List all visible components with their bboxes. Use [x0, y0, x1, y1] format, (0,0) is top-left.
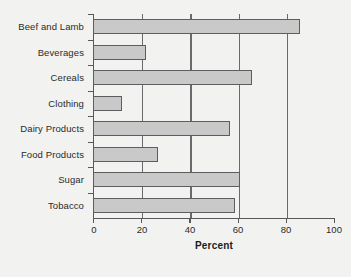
x-axis-tick-80: [286, 218, 287, 223]
y-axis-category-labels: Beef and Lamb Beverages Cereals Clothing…: [0, 14, 88, 218]
x-axis-ticklabel-40: 40: [185, 224, 196, 235]
x-axis-ticklabel-100: 100: [326, 224, 342, 235]
x-axis-ticklabel-20: 20: [137, 224, 148, 235]
y-axis-label-beverages: Beverages: [0, 40, 88, 66]
plot-area: [93, 14, 335, 218]
bar-row: [94, 91, 335, 117]
x-axis-tick-60: [238, 218, 239, 223]
y-axis-label-clothing: Clothing: [0, 91, 88, 117]
x-axis-ticklabel-80: 80: [281, 224, 292, 235]
bar-beverages: [93, 45, 146, 60]
bar-clothing: [93, 96, 122, 111]
bar-row: [94, 65, 335, 91]
x-axis-ticklabel-0: 0: [91, 224, 96, 235]
bar-dairy-products: [93, 121, 230, 136]
bar-food-products: [93, 147, 158, 162]
bar-cereals: [93, 70, 252, 85]
bar-row: [94, 116, 335, 142]
bar-row: [94, 40, 335, 66]
bar-row: [94, 142, 335, 168]
bar-row: [94, 167, 335, 193]
y-axis-label-food-products: Food Products: [0, 142, 88, 168]
x-axis-tick-labels: 0 20 40 60 80 100: [0, 224, 351, 238]
x-axis-tick-100: [334, 218, 335, 223]
y-axis-label-beef-and-lamb: Beef and Lamb: [0, 14, 88, 40]
x-axis-title: Percent: [93, 240, 335, 251]
bar-chart-figure: Beef and Lamb Beverages Cereals Clothing…: [0, 0, 351, 277]
bar-sugar: [93, 172, 240, 187]
y-axis-label-dairy-products: Dairy Products: [0, 116, 88, 142]
x-axis-tick-40: [189, 218, 190, 223]
x-axis-tick-20: [141, 218, 142, 223]
bar-beef-and-lamb: [93, 19, 300, 34]
y-axis-label-tobacco: Tobacco: [0, 193, 88, 219]
bar-series: [94, 14, 335, 218]
y-axis-label-cereals: Cereals: [0, 65, 88, 91]
y-axis-label-sugar: Sugar: [0, 167, 88, 193]
x-axis-ticklabel-60: 60: [233, 224, 244, 235]
bar-row: [94, 14, 335, 40]
x-axis-tick-0: [93, 218, 94, 223]
bar-row: [94, 193, 335, 219]
x-axis-line: [93, 218, 335, 219]
bar-tobacco: [93, 198, 235, 213]
